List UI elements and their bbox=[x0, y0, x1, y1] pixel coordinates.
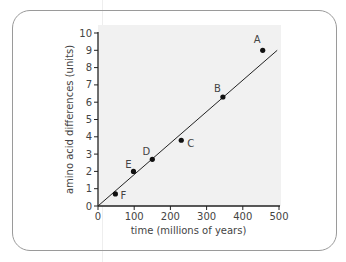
y-tick-label: 5 bbox=[86, 114, 92, 125]
point-label-d: D bbox=[143, 146, 151, 157]
y-tick-label: 6 bbox=[86, 97, 92, 108]
x-tick-label: 200 bbox=[161, 211, 180, 222]
x-tick-label: 500 bbox=[269, 211, 288, 222]
y-tick-label: 7 bbox=[86, 79, 92, 90]
data-point-f bbox=[113, 191, 118, 196]
data-point-e bbox=[131, 169, 136, 174]
y-tick-label: 10 bbox=[79, 28, 92, 39]
point-label-b: B bbox=[214, 83, 221, 94]
data-point-c bbox=[179, 138, 184, 143]
x-tick-label: 400 bbox=[233, 211, 252, 222]
scatter-chart: 0123456789100100200300400500 ABCDEF time… bbox=[0, 0, 346, 262]
data-point-a bbox=[260, 48, 265, 53]
y-tick-label: 2 bbox=[86, 166, 92, 177]
data-point-d bbox=[150, 157, 155, 162]
x-tick-label: 100 bbox=[125, 211, 144, 222]
point-label-e: E bbox=[125, 159, 131, 170]
y-tick-label: 3 bbox=[86, 149, 92, 160]
plot-background bbox=[98, 25, 281, 206]
x-axis-label: time (millions of years) bbox=[131, 225, 247, 236]
y-tick-label: 9 bbox=[86, 45, 92, 56]
x-tick-label: 300 bbox=[197, 211, 216, 222]
point-label-c: C bbox=[187, 138, 194, 149]
x-tick-label: 0 bbox=[95, 211, 101, 222]
y-tick-label: 0 bbox=[86, 201, 92, 212]
point-label-f: F bbox=[120, 190, 126, 201]
y-axis-label: amino acid differences (units) bbox=[64, 45, 75, 194]
y-tick-label: 4 bbox=[86, 131, 92, 142]
y-tick-label: 1 bbox=[86, 183, 92, 194]
y-tick-label: 8 bbox=[86, 62, 92, 73]
point-label-a: A bbox=[254, 34, 261, 45]
data-point-b bbox=[220, 94, 225, 99]
